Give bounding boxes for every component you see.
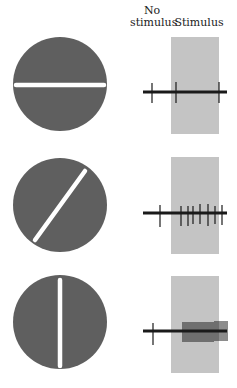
diagram-canvas: [0, 0, 237, 388]
row-diagonal: [13, 157, 227, 254]
row-vertical: [13, 275, 227, 373]
stimulus-band-2: [171, 157, 219, 254]
row-horizontal: [13, 37, 227, 134]
stimulus-band-1: [171, 37, 219, 134]
